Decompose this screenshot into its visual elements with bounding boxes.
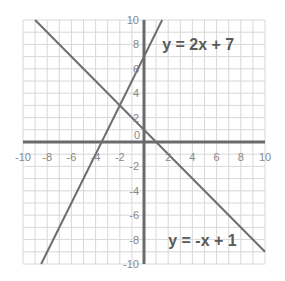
x-tick-label: -4 — [91, 151, 101, 163]
y-tick-label: 8 — [133, 38, 139, 50]
x-tick-label: 10 — [259, 151, 271, 163]
y-tick-label: -2 — [129, 160, 139, 172]
x-tick-label: -6 — [67, 151, 77, 163]
y-tick-label: 10 — [127, 14, 139, 26]
y-tick-label: -6 — [129, 209, 139, 221]
equation-label-0: y = 2x + 7 — [162, 36, 234, 53]
y-tick-label: -8 — [129, 234, 139, 246]
coordinate-plane: -10-8-6-4-22468100-10-8-6-4-2246810 y = … — [0, 0, 285, 281]
y-tick-label: -4 — [129, 185, 139, 197]
equation-label-1: y = -x + 1 — [168, 232, 237, 249]
x-tick-label: 8 — [238, 151, 244, 163]
y-tick-label: -10 — [123, 258, 139, 270]
x-tick-label: -8 — [42, 151, 52, 163]
y-tick-label: 4 — [133, 87, 139, 99]
line-series-1 — [35, 20, 265, 252]
x-tick-label: 2 — [165, 151, 171, 163]
x-tick-label: -10 — [15, 151, 31, 163]
y-tick-label: 6 — [133, 63, 139, 75]
x-tick-label: 4 — [189, 151, 195, 163]
origin-label: 0 — [134, 129, 140, 141]
x-tick-label: -2 — [115, 151, 125, 163]
y-tick-label: 2 — [133, 112, 139, 124]
x-tick-label: 6 — [214, 151, 220, 163]
